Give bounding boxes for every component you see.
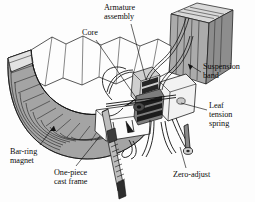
label-leaf-tension-spring: Leaf tension spring xyxy=(209,101,232,129)
label-one-piece-cast-frame: One-piece cast frame xyxy=(54,168,87,186)
label-armature-assembly: Armature assembly xyxy=(104,3,135,21)
label-zero-adjust: Zero-adjust xyxy=(173,170,210,179)
label-bar-ring-magnet: Bar-ring magnet xyxy=(10,147,37,165)
label-core: Core xyxy=(82,28,98,37)
figure-canvas: Armature assembly Core Suspension band L… xyxy=(0,0,255,202)
label-suspension-band: Suspension band xyxy=(203,62,240,80)
armature-assembly-body xyxy=(131,67,164,125)
